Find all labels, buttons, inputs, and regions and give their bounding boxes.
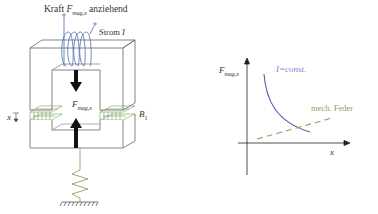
legend-mech-feder: mech. Feder <box>311 104 353 113</box>
force-label: Fmag,x <box>72 100 92 111</box>
legend-i-const: I=const. <box>276 65 306 74</box>
spring <box>72 148 88 202</box>
gap-indicator <box>13 113 19 122</box>
current-label-prefix: Strom <box>99 27 122 37</box>
title-label-suffix: anziehend <box>87 4 128 14</box>
chart-axes <box>238 58 350 175</box>
current-label: Strom I <box>99 28 125 37</box>
field-subscript: 1 <box>145 115 148 121</box>
chart-ylabel: Fmag,x <box>219 66 239 77</box>
ground-mount <box>60 202 98 206</box>
force-arrow-down <box>70 70 82 92</box>
gap-label: x <box>7 113 11 122</box>
field-label: B1 <box>139 110 148 121</box>
force-label-subscript: mag,x <box>78 105 93 111</box>
line-mech-feder <box>257 118 332 139</box>
chart-ylabel-subscript: mag,x <box>225 71 240 77</box>
current-symbol: I <box>122 27 125 37</box>
title-label-prefix: Kraft <box>44 4 66 14</box>
title-label: Kraft Fmag,x anziehend <box>44 5 128 16</box>
diagram-canvas: Kraft Fmag,x anziehend Strom I Fmag,x x … <box>0 0 378 214</box>
force-chart <box>238 58 350 175</box>
curve-i-const <box>264 74 310 132</box>
force-subscript: mag,x <box>72 10 87 16</box>
chart-xlabel: x <box>330 148 334 157</box>
